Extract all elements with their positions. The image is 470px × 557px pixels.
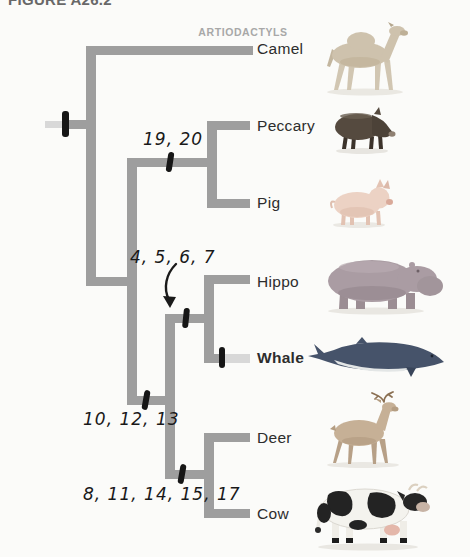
character-label-10-12-13: 10, 12, 13 <box>83 409 180 429</box>
whale-image <box>308 336 450 382</box>
branch-hippo <box>204 275 250 284</box>
phylogenetic-tree-figure: FIGURE A26.2 ARTIODACTYLS 19, 20 4, 5, 6… <box>0 0 470 557</box>
branch-peccary <box>207 121 250 130</box>
peccary-image <box>328 103 396 155</box>
fork-hippo-whale <box>204 275 214 363</box>
taxon-label-pig: Pig <box>257 194 280 212</box>
pig-image <box>324 176 394 228</box>
branch-camel <box>86 46 253 55</box>
taxon-label-camel: Camel <box>257 40 303 58</box>
taxon-label-deer: Deer <box>257 429 292 447</box>
deer-image <box>315 391 415 469</box>
fork-peccary-pig <box>207 121 217 208</box>
group-label-artiodactyls: ARTIODACTYLS <box>163 26 323 38</box>
taxon-label-cow: Cow <box>257 505 289 523</box>
taxon-label-peccary: Peccary <box>257 117 315 135</box>
branch-root-outgroup <box>45 121 63 128</box>
cow-image <box>308 475 436 551</box>
branch-cow <box>204 509 250 518</box>
character-label-8-11-14-15-17: 8, 11, 14, 15, 17 <box>83 484 241 504</box>
trunk-vertical <box>86 46 96 286</box>
branch-deer <box>204 433 250 442</box>
node-b-vertical <box>165 314 175 479</box>
branch-whale-faded <box>225 354 250 363</box>
fork-deer-cow <box>204 433 214 518</box>
branch-pig <box>207 199 250 208</box>
character-label-19-20: 19, 20 <box>143 129 203 149</box>
label-arrow-icon <box>158 262 198 314</box>
figure-title: FIGURE A26.2 <box>8 0 112 8</box>
node-a-vertical <box>127 158 137 405</box>
taxon-label-whale: Whale <box>257 349 304 367</box>
camel-image <box>315 19 420 97</box>
root-character-tick <box>62 111 69 137</box>
hippo-image <box>314 249 444 315</box>
branch-root <box>69 120 87 129</box>
taxon-label-hippo: Hippo <box>257 273 299 291</box>
